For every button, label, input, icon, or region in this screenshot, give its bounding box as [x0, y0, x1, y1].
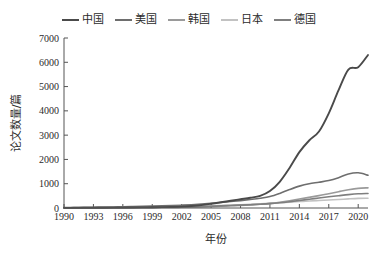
x-tick-label: 2008 — [231, 211, 251, 222]
x-axis-title: 年份 — [205, 232, 227, 246]
y-tick-label: 4000 — [39, 105, 59, 116]
y-tick-label: 6000 — [39, 57, 59, 68]
series-line-中国 — [64, 55, 368, 208]
y-axis-title: 论文数量/篇 — [9, 94, 23, 153]
plot-svg: 01000200030004000500060007000 1990199319… — [0, 0, 378, 259]
series-lines — [64, 55, 368, 208]
plot-area: 01000200030004000500060007000 1990199319… — [0, 0, 378, 259]
x-tick-label: 2011 — [260, 211, 280, 222]
x-tick-label: 2020 — [348, 211, 368, 222]
x-tick-label: 1990 — [54, 211, 74, 222]
y-tick-label: 1000 — [39, 178, 59, 189]
paper-count-line-chart: 中国 美国 韩国 日本 德国 0100020003000400050006000… — [0, 0, 378, 259]
y-tick-label: 3000 — [39, 130, 59, 141]
x-tick-label: 1993 — [83, 211, 103, 222]
x-tick-label: 2005 — [201, 211, 221, 222]
y-tick-label: 2000 — [39, 154, 59, 165]
x-tick-label: 2014 — [289, 211, 309, 222]
x-tick-label: 1999 — [142, 211, 162, 222]
x-tick-label: 2017 — [319, 211, 339, 222]
y-tick-label: 5000 — [39, 81, 59, 92]
x-tick-label: 1996 — [113, 211, 133, 222]
y-tick-label: 7000 — [39, 33, 59, 44]
x-tick-label: 2002 — [172, 211, 192, 222]
